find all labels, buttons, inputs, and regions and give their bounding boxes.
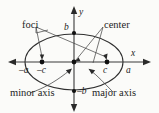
tick-label-pos-a: a bbox=[126, 66, 131, 76]
tick-label-neg-a: –a bbox=[19, 66, 29, 76]
tick-label-neg-b: –b bbox=[77, 87, 87, 97]
ellipse-diagram-figure: foci center minor axis major axis y x –a… bbox=[0, 0, 159, 113]
point-top-vertex bbox=[72, 31, 76, 35]
y-axis-top-arrowhead bbox=[71, 6, 77, 14]
center-label: center bbox=[104, 20, 130, 31]
foci-label: foci bbox=[22, 20, 38, 31]
foci-leader-lines bbox=[36, 27, 106, 57]
major-axis-label: major axis bbox=[92, 88, 136, 99]
minor-axis-label: minor axis bbox=[10, 88, 55, 99]
point-left-focus bbox=[40, 60, 45, 65]
point-right-focus bbox=[105, 60, 110, 65]
y-axis-label: y bbox=[79, 8, 83, 18]
point-bottom-vertex bbox=[72, 89, 76, 93]
y-axis-bottom-arrowhead bbox=[71, 104, 77, 112]
tick-label-pos-c: c bbox=[103, 66, 107, 76]
x-axis-label: x bbox=[131, 49, 135, 59]
center-leader-lines bbox=[76, 27, 103, 63]
tick-label-neg-c: –c bbox=[37, 66, 46, 76]
tick-label-pos-b: b bbox=[64, 23, 69, 33]
x-axis-left-arrowhead bbox=[8, 59, 16, 66]
point-center bbox=[72, 60, 77, 65]
x-axis-right-arrowhead bbox=[143, 59, 151, 66]
